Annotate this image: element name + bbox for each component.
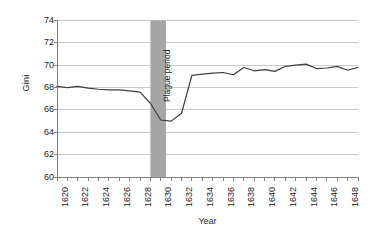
y-axis-ticks: 6062646668707274 bbox=[28, 0, 54, 238]
x-tick-label: 1632 bbox=[185, 187, 194, 207]
x-tick-label: 1628 bbox=[144, 187, 153, 207]
x-axis-label: Year bbox=[57, 216, 358, 226]
plague-period-label: Plague period bbox=[162, 50, 172, 102]
y-tick-label: 68 bbox=[32, 83, 54, 92]
y-tick-label: 70 bbox=[32, 61, 54, 70]
x-tick-label: 1634 bbox=[206, 187, 215, 207]
x-tick-label: 1644 bbox=[310, 187, 319, 207]
x-tick-label: 1648 bbox=[351, 187, 360, 207]
y-tick-label: 74 bbox=[32, 16, 54, 25]
y-tick-label: 60 bbox=[32, 173, 54, 182]
x-tick-label: 1620 bbox=[61, 187, 70, 207]
x-tick-label: 1638 bbox=[247, 187, 256, 207]
y-tick-label: 64 bbox=[32, 128, 54, 137]
x-tick-label: 1636 bbox=[227, 187, 236, 207]
x-tick-label: 1646 bbox=[330, 187, 339, 207]
x-tick-label: 1640 bbox=[268, 187, 277, 207]
x-tick-label: 1642 bbox=[289, 187, 298, 207]
y-tick-label: 66 bbox=[32, 105, 54, 114]
y-tick-label: 72 bbox=[32, 38, 54, 47]
x-tick-label: 1626 bbox=[123, 187, 132, 207]
gini-series-line bbox=[57, 64, 358, 121]
x-tick-label: 1624 bbox=[102, 187, 111, 207]
x-tick-label: 1630 bbox=[164, 187, 173, 207]
y-tick-label: 62 bbox=[32, 150, 54, 159]
chart-figure: Gini Year 6062646668707274 1620162216241… bbox=[0, 0, 376, 238]
x-tick-label: 1622 bbox=[81, 187, 90, 207]
